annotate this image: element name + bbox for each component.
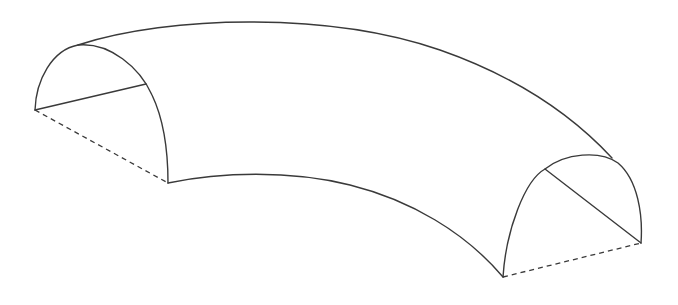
left-cap-chord: [35, 84, 146, 110]
inner-bottom-edge: [168, 174, 503, 277]
left-base-edge-dashed: [35, 110, 168, 183]
right-base-edge-dashed: [503, 243, 641, 277]
outer-top-edge: [78, 22, 612, 158]
right-cap-chord: [545, 169, 641, 243]
right-end-cap-arc: [503, 155, 641, 277]
diagram-canvas: [0, 0, 678, 305]
curved-half-pipe-drawing: [0, 0, 678, 305]
left-end-cap-arc: [35, 45, 168, 183]
